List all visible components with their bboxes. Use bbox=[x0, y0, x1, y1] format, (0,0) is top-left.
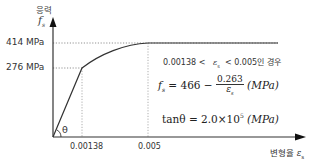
condition-subscript: s bbox=[217, 63, 220, 69]
epsilon-subscript: s bbox=[301, 154, 304, 160]
theta-arc bbox=[57, 130, 61, 137]
y-tick-414: 414 MPa bbox=[6, 37, 44, 47]
x-axis-label: 변형율 εs bbox=[270, 146, 304, 160]
y-axis-arrow-icon bbox=[50, 17, 57, 27]
eq-fraction-denominator: εs bbox=[216, 85, 244, 96]
x-tick-0005: 0.005 bbox=[138, 142, 161, 151]
eq-tan-body: tanθ = 2.0×10 bbox=[162, 113, 240, 125]
theta-label: θ bbox=[62, 124, 68, 135]
x-axis-arrow-icon bbox=[295, 134, 306, 141]
y-tick-276: 276 MPa bbox=[6, 62, 44, 72]
condition-left: 0.00138 < bbox=[163, 58, 205, 67]
condition-text: 0.00138 < εs < 0.005인 경우 bbox=[163, 56, 281, 69]
equation-fs: fs = 466 − 0.263εs (MPa) bbox=[158, 75, 279, 96]
x-tick-00138: 0.00138 bbox=[70, 142, 103, 151]
eq-fraction: 0.263εs bbox=[216, 75, 244, 96]
eq-fs-body: = 466 − bbox=[165, 79, 213, 91]
eq-tan-unit: (MPa) bbox=[244, 113, 279, 125]
equation-tan: tanθ = 2.0×105 (MPa) bbox=[162, 112, 279, 125]
y-axis-label-symbol: fs bbox=[38, 14, 45, 28]
fs-subscript: s bbox=[42, 21, 45, 28]
condition-right: < 0.005인 경우 bbox=[225, 58, 281, 67]
x-axis-label-korean: 변형율 bbox=[270, 148, 294, 158]
eq-den-subscript: s bbox=[231, 90, 234, 96]
eq-unit: (MPa) bbox=[247, 79, 279, 91]
